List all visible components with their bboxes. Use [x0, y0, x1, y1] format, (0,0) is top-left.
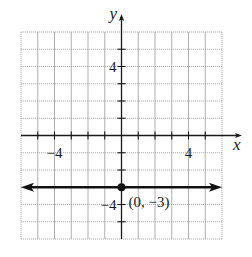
chart-labels: x y (0, −3): [108, 4, 242, 211]
x-tick-label: 4: [185, 145, 193, 161]
x-tick-label: −4: [47, 145, 63, 161]
y-tick-label: 4: [109, 59, 117, 75]
plot-series: [21, 183, 222, 192]
point-label: (0, −3): [129, 194, 170, 211]
data-point: [118, 183, 126, 191]
x-axis-label: x: [232, 135, 241, 154]
y-axis-label: y: [108, 4, 118, 23]
coordinate-plane: −444−4 x y (0, −3): [0, 0, 252, 257]
y-tick-label: −4: [101, 197, 117, 213]
